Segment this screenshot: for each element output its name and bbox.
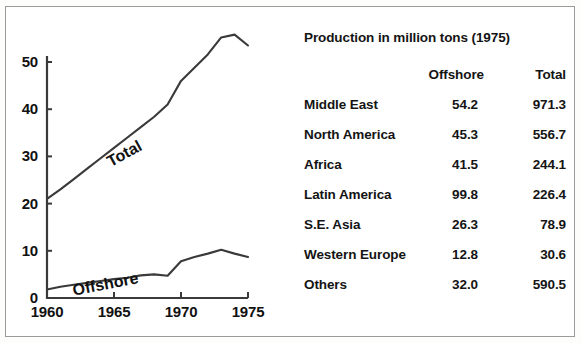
cell-offshore: 54.2 [414, 89, 500, 119]
cell-region: Middle East [300, 89, 414, 119]
cell-total: 78.9 [500, 209, 572, 239]
cell-offshore: 12.8 [414, 239, 500, 269]
table-head: Offshore Total [300, 59, 572, 89]
column-header-offshore: Offshore [414, 59, 500, 89]
cell-offshore: 99.8 [414, 179, 500, 209]
cell-region: Others [300, 269, 414, 299]
y-tick-label-30: 30 [8, 147, 38, 164]
column-header-region [300, 59, 414, 89]
table-row: Middle East 54.2 971.3 [300, 89, 572, 119]
production-table-panel: Production in million tons (1975) Offsho… [300, 7, 572, 336]
line-chart: 50 40 30 20 10 0 1960 1965 1970 1975 Tot… [6, 7, 288, 336]
cell-total: 971.3 [500, 89, 572, 119]
cell-offshore: 32.0 [414, 269, 500, 299]
cell-region: S.E. Asia [300, 209, 414, 239]
column-header-total: Total [500, 59, 572, 89]
cell-total: 30.6 [500, 239, 572, 269]
cell-total: 556.7 [500, 119, 572, 149]
cell-total: 226.4 [500, 179, 572, 209]
cell-region: North America [300, 119, 414, 149]
series-line-total [47, 35, 248, 199]
cell-offshore: 45.3 [414, 119, 500, 149]
cell-region: Western Europe [300, 239, 414, 269]
cell-offshore: 41.5 [414, 149, 500, 179]
y-tick-label-20: 20 [8, 195, 38, 212]
table-title: Production in million tons (1975) [304, 30, 510, 45]
table-row: Others 32.0 590.5 [300, 269, 572, 299]
x-tick-label-1965: 1965 [87, 303, 141, 320]
cell-region: Africa [300, 149, 414, 179]
cell-total: 244.1 [500, 149, 572, 179]
y-tick-label-50: 50 [8, 53, 38, 70]
y-tick-label-40: 40 [8, 100, 38, 117]
chart-canvas [6, 7, 288, 336]
y-tick-label-10: 10 [8, 242, 38, 259]
table-row: Western Europe 12.8 30.6 [300, 239, 572, 269]
table-row: Africa 41.5 244.1 [300, 149, 572, 179]
x-tick-label-1960: 1960 [20, 303, 74, 320]
table-row: Latin America 99.8 226.4 [300, 179, 572, 209]
production-table: Offshore Total Middle East 54.2 971.3 No… [300, 59, 572, 299]
table-header-row: Offshore Total [300, 59, 572, 89]
cell-region: Latin America [300, 179, 414, 209]
x-tick-label-1970: 1970 [154, 303, 208, 320]
x-tick-label-1975: 1975 [221, 303, 275, 320]
screenshot-root: 50 40 30 20 10 0 1960 1965 1970 1975 Tot… [0, 0, 581, 343]
table-body: Middle East 54.2 971.3 North America 45.… [300, 89, 572, 299]
cell-total: 590.5 [500, 269, 572, 299]
table-row: North America 45.3 556.7 [300, 119, 572, 149]
cell-offshore: 26.3 [414, 209, 500, 239]
table-row: S.E. Asia 26.3 78.9 [300, 209, 572, 239]
